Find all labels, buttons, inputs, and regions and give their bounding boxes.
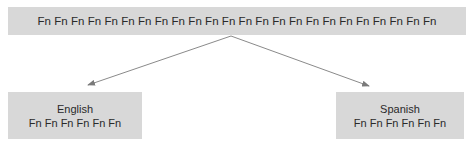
edge-root-to-english [88, 36, 231, 85]
spanish-node-text: Fn Fn Fn Fn Fn Fn [354, 116, 446, 130]
english-node-title: English [57, 102, 93, 116]
root-node: Fn Fn Fn Fn Fn Fn Fn Fn Fn Fn Fn Fn Fn F… [8, 7, 466, 35]
spanish-node-title: Spanish [380, 102, 420, 116]
spanish-node: Spanish Fn Fn Fn Fn Fn Fn [336, 92, 464, 139]
english-node: English Fn Fn Fn Fn Fn Fn [8, 92, 142, 139]
english-node-text: Fn Fn Fn Fn Fn Fn [29, 116, 121, 130]
root-node-text: Fn Fn Fn Fn Fn Fn Fn Fn Fn Fn Fn Fn Fn F… [37, 14, 436, 28]
edge-root-to-spanish [231, 36, 369, 86]
